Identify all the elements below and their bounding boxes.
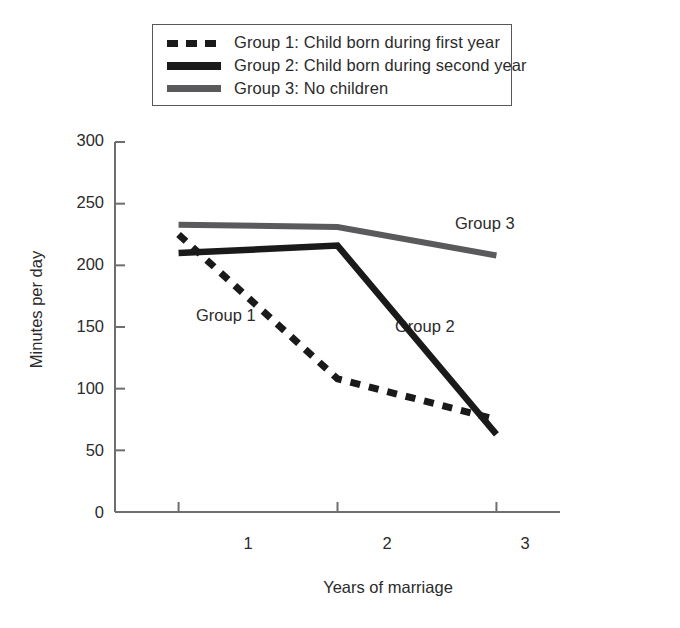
y-axis-ticks — [115, 142, 125, 512]
plot-area — [0, 0, 680, 628]
series-line-group-1 — [179, 235, 497, 420]
x-axis-ticks — [179, 502, 497, 512]
chart-figure: Group 1: Child born during first year Gr… — [0, 0, 680, 628]
